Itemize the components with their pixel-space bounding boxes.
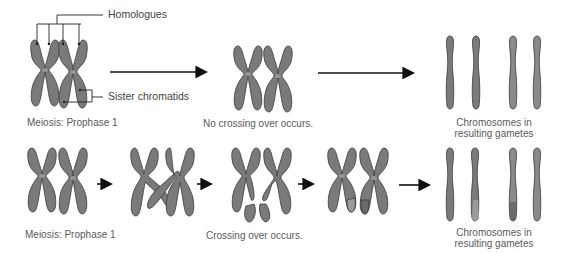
top-gametes-line2: resulting gametes [438, 128, 550, 139]
chromosome-pair-recombined [328, 148, 388, 214]
chromosome-homologue-1 [31, 40, 59, 106]
bottom-gametes-label: Chromosomes in resulting gametes [438, 227, 550, 249]
crossover-label: Crossing over occurs. [206, 230, 303, 241]
bottom-gametes-line2: resulting gametes [438, 238, 550, 249]
gamete-chromosomes-bottom [446, 148, 541, 221]
bottom-gametes-line1: Chromosomes in [438, 227, 550, 238]
top-gametes-line1: Chromosomes in [438, 117, 550, 128]
chromosome-pair-crossing [131, 148, 194, 216]
top-gametes-label: Chromosomes in resulting gametes [438, 117, 550, 139]
homologues-label: Homologues [108, 9, 167, 20]
bottom-prophase-label: Meiosis: Prophase 1 [25, 229, 116, 240]
gamete-chromosomes-top [446, 36, 541, 109]
no-crossover-label: No crossing over occurs. [203, 118, 313, 129]
sister-chromatids-label: Sister chromatids [108, 91, 189, 102]
chromosome-pair-no-crossover [234, 46, 292, 112]
top-prophase-label: Meiosis: Prophase 1 [27, 117, 118, 128]
homologues-bracket [37, 15, 103, 44]
chromosome-pair-prophase-bottom [28, 148, 87, 214]
chromosome-pair-broken [232, 148, 291, 222]
